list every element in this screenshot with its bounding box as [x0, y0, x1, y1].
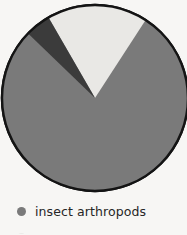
pie-chart-figure: insect arthropods [0, 0, 187, 234]
legend-item-label: insect arthropods [35, 205, 146, 218]
pie-chart-svg [0, 0, 187, 198]
legend-item-other-arthropods[interactable] [0, 224, 187, 234]
legend-color-swatch-icon [17, 207, 26, 216]
chart-legend: insect arthropods [0, 198, 187, 234]
legend-color-swatch-icon [17, 233, 26, 235]
legend-item-insect-arthropods[interactable]: insect arthropods [0, 198, 187, 224]
pie-plot-area [0, 0, 187, 198]
